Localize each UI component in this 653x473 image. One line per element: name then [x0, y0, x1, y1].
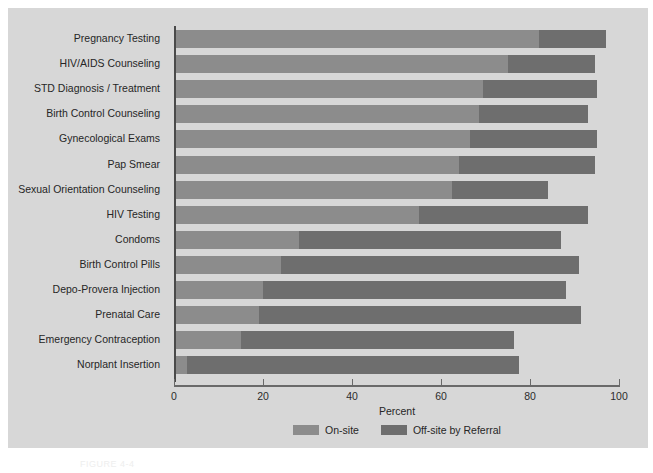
x-tick-label: 60 — [435, 390, 447, 402]
legend-entry[interactable]: On-site — [293, 424, 359, 436]
category-label: Pap Smear — [107, 158, 160, 170]
x-tick-mark — [174, 379, 175, 386]
bar-segment-offsite — [508, 55, 595, 73]
bar-segment-offsite — [539, 30, 606, 48]
bar-segment-offsite — [483, 80, 596, 98]
bar-segment-offsite — [299, 231, 562, 249]
chart-figure: Pregnancy TestingHIV/AIDS CounselingSTD … — [0, 0, 653, 473]
x-tick-label: 20 — [257, 390, 269, 402]
bar-row — [174, 80, 619, 98]
bar-row — [174, 156, 619, 174]
bar-segment-offsite — [459, 156, 595, 174]
bar-segment-onsite — [174, 156, 459, 174]
bar-segment-offsite — [452, 181, 548, 199]
category-label: HIV/AIDS Counseling — [60, 57, 160, 69]
bar-row — [174, 256, 619, 274]
category-label: Prenatal Care — [95, 308, 160, 320]
bar-segment-offsite — [259, 306, 582, 324]
bar-row — [174, 231, 619, 249]
figure-caption: FIGURE 4-4 — [80, 459, 135, 469]
x-axis-title: Percent — [174, 405, 620, 417]
bar-segment-offsite — [419, 206, 588, 224]
bar-segment-onsite — [174, 206, 419, 224]
legend-label: Off-site by Referral — [413, 424, 501, 436]
bar-segment-onsite — [174, 130, 470, 148]
legend-swatch-icon — [381, 425, 407, 435]
category-label: Sexual Orientation Counseling — [18, 183, 160, 195]
bar-segment-onsite — [174, 105, 479, 123]
x-tick-mark — [441, 379, 442, 386]
y-axis-spine — [174, 26, 176, 382]
bar-row — [174, 105, 619, 123]
x-tick-label: 80 — [524, 390, 536, 402]
bar-segment-onsite — [174, 231, 299, 249]
category-label: Emergency Contraception — [39, 333, 160, 345]
x-tick-label: 40 — [346, 390, 358, 402]
bar-segment-offsite — [281, 256, 579, 274]
bar-segment-onsite — [174, 306, 259, 324]
bar-segment-offsite — [187, 356, 519, 374]
bar-segment-onsite — [174, 281, 263, 299]
plot-area — [174, 28, 619, 380]
x-tick-label: 0 — [171, 390, 177, 402]
x-tick-mark — [530, 379, 531, 386]
bar-row — [174, 281, 619, 299]
legend-label: On-site — [325, 424, 359, 436]
x-tick-mark — [352, 379, 353, 386]
category-label: Depo-Provera Injection — [53, 283, 160, 295]
x-tick-mark — [619, 379, 620, 386]
bar-segment-onsite — [174, 331, 241, 349]
bar-segment-offsite — [470, 130, 597, 148]
bar-segment-onsite — [174, 356, 187, 374]
x-tick-label: 100 — [610, 390, 628, 402]
bar-segment-onsite — [174, 80, 483, 98]
bar-row — [174, 30, 619, 48]
category-axis-labels: Pregnancy TestingHIV/AIDS CounselingSTD … — [0, 0, 168, 473]
bar-row — [174, 181, 619, 199]
bar-segment-onsite — [174, 256, 281, 274]
chart-legend: On-siteOff-site by Referral — [174, 423, 620, 437]
bar-row — [174, 55, 619, 73]
bar-segment-offsite — [263, 281, 566, 299]
x-tick-mark — [263, 379, 264, 386]
x-axis-spine — [174, 385, 620, 387]
bar-row — [174, 130, 619, 148]
category-label: Gynecological Exams — [59, 132, 160, 144]
category-label: Norplant Insertion — [77, 358, 160, 370]
category-label: Birth Control Counseling — [46, 107, 160, 119]
category-label: HIV Testing — [107, 208, 161, 220]
bar-segment-offsite — [479, 105, 588, 123]
bar-segment-onsite — [174, 55, 508, 73]
category-label: STD Diagnosis / Treatment — [34, 82, 160, 94]
category-label: Pregnancy Testing — [74, 32, 160, 44]
bar-row — [174, 356, 619, 374]
bar-row — [174, 206, 619, 224]
bar-segment-onsite — [174, 181, 452, 199]
legend-swatch-icon — [293, 425, 319, 435]
bar-segment-offsite — [241, 331, 515, 349]
bar-segment-onsite — [174, 30, 539, 48]
legend-entry[interactable]: Off-site by Referral — [381, 424, 501, 436]
bar-row — [174, 331, 619, 349]
bar-row — [174, 306, 619, 324]
category-label: Birth Control Pills — [79, 258, 160, 270]
category-label: Condoms — [115, 233, 160, 245]
